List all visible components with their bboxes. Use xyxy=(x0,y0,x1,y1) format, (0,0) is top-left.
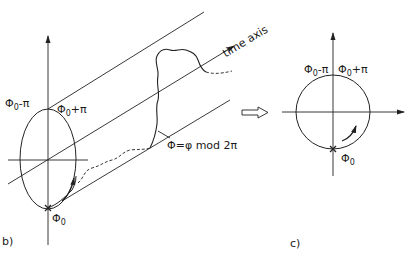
rotation-arrow xyxy=(342,126,356,141)
label-base: Φ xyxy=(52,212,61,225)
formula-label: Φ=φ mod 2π xyxy=(167,140,237,151)
label-phi0-c: Φ0 xyxy=(341,153,355,168)
time-axis-line xyxy=(8,46,234,184)
panel-b-graphic xyxy=(8,12,234,245)
label-phi0-b: Φ0 xyxy=(52,213,66,228)
hollow-arrow-icon xyxy=(242,107,268,118)
label-phi0-plus-pi-b: Φ0+π xyxy=(57,104,87,119)
label-base: Φ xyxy=(57,103,66,116)
label-base: Φ xyxy=(304,63,313,76)
trajectory-dashed-end xyxy=(206,71,232,73)
label-base: Φ xyxy=(338,63,347,76)
label-sub: 0 xyxy=(350,158,355,167)
label-rest: -π xyxy=(318,63,329,76)
label-sub: 0 xyxy=(61,218,66,227)
trajectory-dashed xyxy=(78,148,150,183)
formula-leader xyxy=(158,131,170,138)
trajectory-wiggly xyxy=(150,49,206,148)
panel-c-label: c) xyxy=(290,237,300,250)
label-rest: -π xyxy=(19,97,30,110)
label-base: Φ xyxy=(5,97,14,110)
trajectory-start xyxy=(48,176,76,208)
panel-b-label: b) xyxy=(2,235,13,248)
label-phi0-minus-pi-c: Φ0-π xyxy=(304,64,328,79)
cylinder-top-line xyxy=(48,12,204,109)
label-rest: +π xyxy=(352,63,368,76)
label-phi0-minus-pi-b: Φ0-π xyxy=(5,98,29,113)
label-phi0-plus-pi-c: Φ0+π xyxy=(338,64,368,79)
label-rest: +π xyxy=(71,103,87,116)
label-base: Φ xyxy=(341,152,350,165)
